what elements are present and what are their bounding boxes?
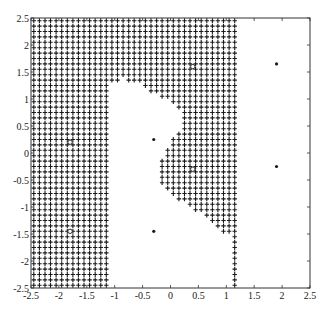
x-tick-label: -1.5 xyxy=(79,290,95,301)
decision-region-plus-marks xyxy=(32,18,237,287)
circle-marker xyxy=(68,140,72,144)
star-marker xyxy=(152,138,155,141)
star-marker xyxy=(275,62,278,65)
x-tick-label: 2 xyxy=(280,290,285,301)
x-tick-label: 0.5 xyxy=(192,290,205,301)
x-tick-label: 1 xyxy=(224,290,229,301)
y-tick-label: 0.5 xyxy=(17,121,30,132)
x-tick-label: -0.5 xyxy=(135,290,151,301)
y-tick-label: -1 xyxy=(21,202,29,213)
x-tick-label: 0 xyxy=(168,290,173,301)
circle-marker xyxy=(68,229,72,233)
circle-marker xyxy=(191,167,195,171)
circle-marker xyxy=(191,64,195,68)
x-tick-label: 1.5 xyxy=(248,290,261,301)
y-tick-label: 2 xyxy=(24,40,29,51)
y-tick-label: -1.5 xyxy=(13,229,29,240)
x-tick-label: 2.5 xyxy=(304,290,317,301)
y-tick-label: 1.5 xyxy=(17,67,30,78)
y-tick-label: -0.5 xyxy=(13,175,29,186)
x-tick-label: -1 xyxy=(111,290,119,301)
decision-region-figure: -2.5-2-1.5-1-0.500.511.522.5 2.521.510.5… xyxy=(0,0,326,317)
star-marker xyxy=(275,165,278,168)
y-tick-label: 0 xyxy=(24,148,29,159)
x-tick-label: -2 xyxy=(55,290,63,301)
y-tick-label: -2 xyxy=(21,256,29,267)
y-tick-label: -2.5 xyxy=(13,283,29,294)
y-tick-label: 2.5 xyxy=(17,13,30,24)
star-marker xyxy=(152,230,155,233)
y-tick-label: 1 xyxy=(24,94,29,105)
